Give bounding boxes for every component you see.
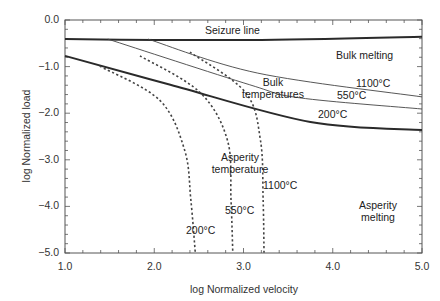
x-tick-label: 2.0	[139, 260, 169, 272]
bulk-temperatures-line2: temperatures	[233, 89, 313, 101]
asperity-melting-line1: Asperity	[348, 200, 408, 212]
bulk-550-label: 550°C	[337, 90, 366, 102]
x-tick-label: 1.0	[50, 260, 80, 272]
asperity-temperature-line1: Asperity	[200, 152, 280, 164]
bulk-temperatures-line1: Bulk	[233, 77, 313, 89]
bulk-melting-label: Bulk melting	[336, 50, 393, 62]
asperity-melting-label: Asperity melting	[348, 200, 408, 223]
y-axis-title: log Normalized load	[20, 66, 32, 206]
asperity-temperature-label: Asperity temperature	[200, 152, 280, 175]
bulk-1100-label: 1100°C	[356, 78, 390, 90]
wear-map-chart	[0, 0, 440, 301]
asperity-1100-label: 1100°C	[263, 180, 297, 192]
bulk-temperatures-label: Bulk temperatures	[233, 77, 313, 100]
seizure-line-curve	[65, 37, 422, 40]
x-tick-label: 4.0	[318, 260, 348, 272]
y-tick-label: 0.0	[19, 13, 59, 25]
asperity-550-label: 550°C	[225, 205, 254, 217]
asperity-200-label: 200°C	[186, 225, 215, 237]
x-axis-title: log Normalized velocity	[190, 283, 298, 295]
asperity-melting-line2: melting	[348, 212, 408, 224]
asperity-temperature-line2: temperature	[200, 164, 280, 176]
seizure-line-label: Seizure line	[205, 25, 260, 37]
x-tick-label: 3.0	[229, 260, 259, 272]
x-tick-label: 5.0	[407, 260, 437, 272]
y-tick-label: −5.0	[19, 246, 59, 258]
bulk-200-label: 200°C	[318, 109, 347, 121]
asperity-temperature-200-c-curve	[100, 66, 195, 253]
